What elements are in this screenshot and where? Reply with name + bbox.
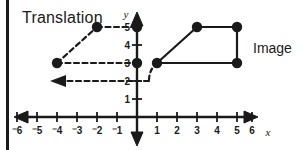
image-vertex-3-5 [192, 22, 202, 32]
image-edge-slant [157, 27, 197, 63]
x-tick-label-3: 3 [194, 125, 200, 136]
x-axis-name-label: x [265, 126, 271, 138]
x-tick-label-1: 1 [154, 125, 160, 136]
x-tick-label-2: 2 [174, 125, 180, 136]
y-axis-down-arrowhead [131, 132, 143, 146]
image-vertex-1-3 [152, 58, 162, 68]
x-tick-label--2: ⁻2 [92, 125, 103, 136]
x-tick-label-5: 5 [234, 125, 240, 136]
preimage-vertex-0-5 [132, 22, 142, 32]
y-tick-label-4: 4 [124, 40, 130, 51]
y-axis-name-label: y [123, 8, 129, 20]
preimage-vertex--4-3 [52, 58, 62, 68]
x-tick-label--3: ⁻3 [72, 125, 83, 136]
image-vertex-dots [152, 22, 242, 68]
x-tick-label--5: ⁻5 [32, 125, 43, 136]
image-vertex-5-5 [232, 22, 242, 32]
x-tick-label--6: ⁻6 [12, 125, 23, 136]
translation-label: Translation [22, 10, 103, 26]
preimage-vertex-0-3 [132, 58, 142, 68]
preimage-edge-slant [57, 27, 97, 63]
translation-arrowhead [50, 75, 66, 87]
image-vertex-5-3 [232, 58, 242, 68]
x-tick-label-6: 6 [249, 125, 255, 136]
coordinate-plane-figure: ⁻6 ⁻5 ⁻4 ⁻3 ⁻2 ⁻1 1 2 3 4 5 6 1 2 3 4 5 … [0, 0, 305, 150]
image-label: Image [253, 41, 292, 55]
y-tick-label-1: 1 [124, 94, 130, 105]
x-tick-label--4: ⁻4 [52, 125, 63, 136]
x-tick-label-4: 4 [214, 125, 220, 136]
x-axis-right-arrowhead [244, 111, 258, 123]
x-tick-label--1: ⁻1 [112, 125, 123, 136]
image-shape [157, 27, 237, 63]
